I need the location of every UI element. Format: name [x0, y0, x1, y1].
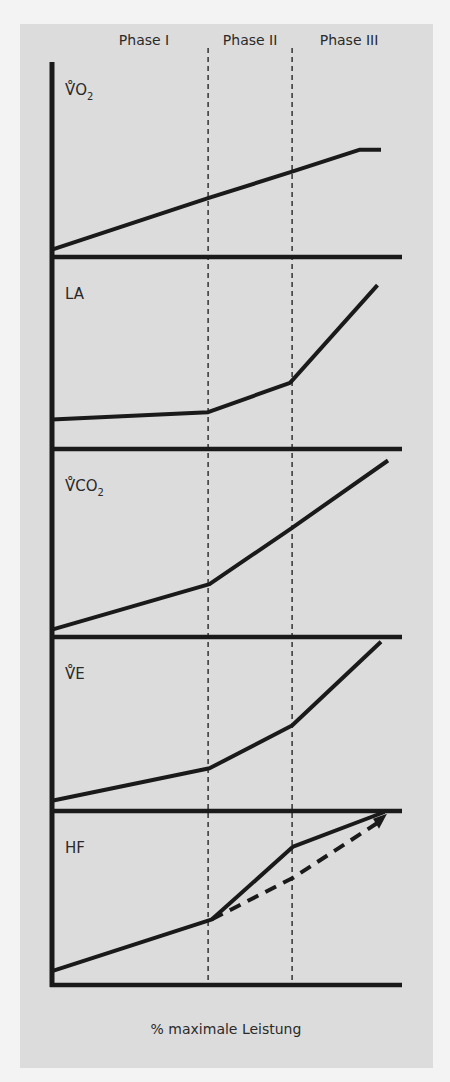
series-la [52, 285, 378, 419]
series-ve [52, 642, 381, 801]
series-hf-linear [212, 821, 381, 920]
series-vco2 [52, 461, 388, 630]
phase-label-1: Phase I [119, 32, 169, 48]
panel-label-5: HF [65, 839, 85, 857]
phase-label-3: Phase III [320, 32, 379, 48]
series-vo2 [52, 150, 381, 250]
panel-label-2: LA [65, 285, 85, 303]
panel-label-4: V̊E [65, 664, 85, 683]
x-axis-label: % maximale Leistung [151, 1021, 302, 1037]
panel-label-1: V̊O2 [65, 80, 93, 102]
physiology-chart: Phase IPhase IIPhase IIIV̊O2LAV̊CO2V̊EHF… [0, 0, 450, 1082]
series-hf [52, 812, 385, 971]
panel-label-3: V̊CO2 [65, 476, 104, 498]
phase-label-2: Phase II [223, 32, 278, 48]
